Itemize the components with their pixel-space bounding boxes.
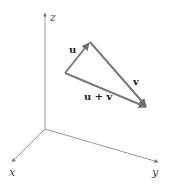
- vector-u-label: u: [69, 44, 76, 55]
- y-axis-label: y: [151, 166, 159, 179]
- vector-v-label: v: [132, 76, 140, 87]
- vector-diagram: z y x u v u + v: [0, 0, 169, 193]
- z-axis-label: z: [49, 11, 56, 24]
- axes: [12, 13, 158, 162]
- vector-sum-label: u + v: [84, 91, 114, 102]
- y-axis: [45, 129, 158, 162]
- x-axis-label: x: [9, 166, 16, 179]
- x-axis: [12, 129, 45, 162]
